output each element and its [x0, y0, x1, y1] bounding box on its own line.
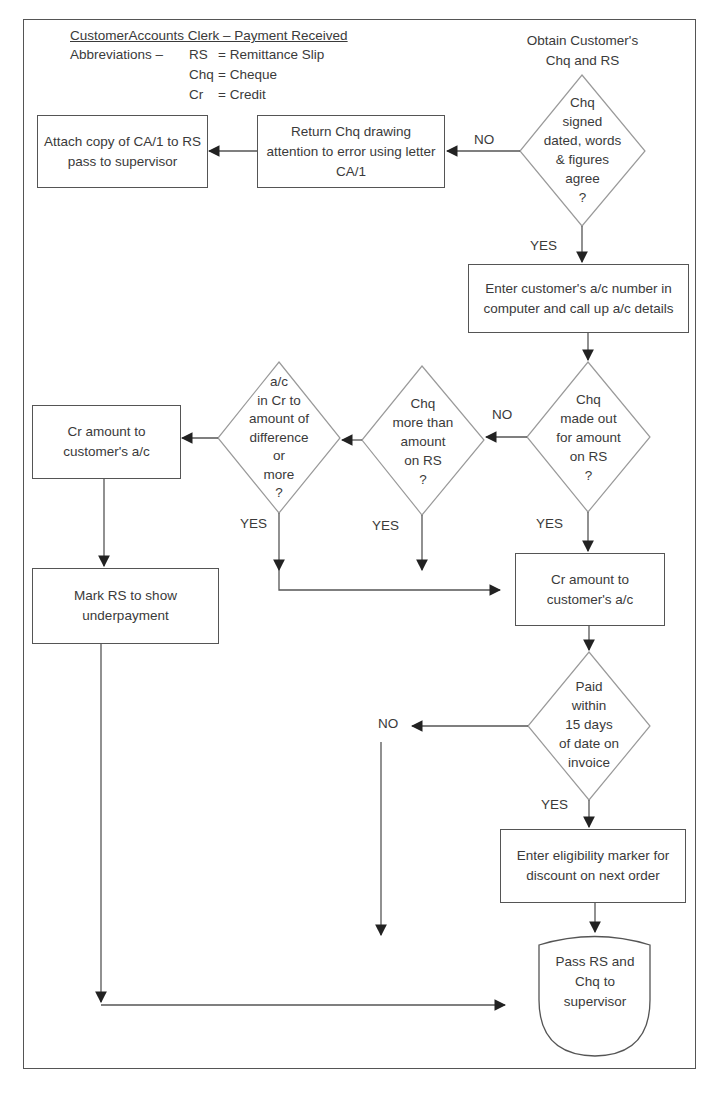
start-label: Obtain Customer's Chq and RS: [500, 30, 665, 72]
label-no: NO: [474, 132, 494, 147]
abbreviations-label: Abbreviations –: [70, 45, 163, 65]
page-title: CustomerAccounts Clerk – Payment Receive…: [70, 26, 348, 46]
decision-more-than: Chq more than amount on RS ?: [362, 376, 484, 506]
enter-eligibility-box: Enter eligibility marker for discount on…: [500, 829, 686, 903]
label-yes: YES: [541, 797, 568, 812]
decision-amount-match: Chq made out for amount on RS ?: [527, 372, 650, 502]
abbr-rs: RS: [189, 45, 208, 65]
abbr-cr: Cr: [189, 85, 203, 105]
abbr-chq-meaning: = Cheque: [218, 65, 277, 85]
decision-in-credit: a/c in Cr to amount of difference or mor…: [218, 366, 340, 510]
credit-left-box: Cr amount to customer's a/c: [32, 405, 181, 479]
abbr-rs-meaning: = Remittance Slip: [218, 45, 324, 65]
label-no: NO: [492, 407, 512, 422]
decision-cheque-valid: Chq signed dated, words & figures agree …: [520, 85, 645, 215]
label-no: NO: [378, 716, 398, 731]
abbr-chq: Chq: [189, 65, 214, 85]
abbr-cr-meaning: = Credit: [218, 85, 266, 105]
return-cheque-box: Return Chq drawing attention to error us…: [257, 115, 445, 188]
decision-paid-15-days: Paid within 15 days of date on invoice: [528, 664, 650, 784]
label-yes: YES: [536, 516, 563, 531]
attach-copy-box: Attach copy of CA/1 to RS pass to superv…: [37, 115, 208, 188]
label-yes: YES: [530, 238, 557, 253]
label-yes: YES: [240, 516, 267, 531]
mark-underpayment-box: Mark RS to show underpayment: [32, 568, 219, 644]
credit-right-box: Cr amount to customer's a/c: [515, 553, 665, 626]
label-yes: YES: [372, 518, 399, 533]
enter-account-box: Enter customer's a/c number in computer …: [468, 264, 689, 333]
terminal-pass-to-supervisor: Pass RS and Chq to supervisor: [545, 950, 645, 1014]
